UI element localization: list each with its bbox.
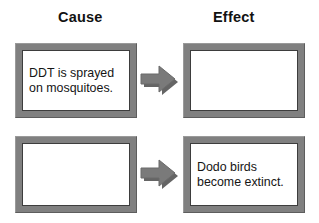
right-arrow-icon-glyph — [140, 157, 184, 191]
column-heading-effect: Effect — [213, 9, 255, 25]
right-arrow-icon — [140, 157, 184, 191]
cause-box-row-1[interactable]: DDT is sprayed on mosquitoes. — [15, 43, 137, 118]
cause-text-row-1: DDT is sprayed on mosquitoes. — [23, 66, 117, 96]
effect-box-row-2[interactable]: Dodo birds become extinct. — [183, 136, 305, 213]
cause-box-row-2-inner — [22, 143, 130, 206]
effect-box-row-1[interactable] — [183, 43, 305, 118]
cause-effect-worksheet: Cause Effect DDT is sprayed on mosquitoe… — [0, 0, 319, 223]
right-arrow-icon-glyph — [140, 63, 184, 97]
right-arrow-icon — [140, 63, 184, 97]
cause-box-row-2[interactable] — [15, 136, 137, 213]
effect-box-row-2-inner: Dodo birds become extinct. — [190, 143, 298, 206]
column-heading-cause: Cause — [58, 9, 103, 25]
effect-text-row-2: Dodo birds become extinct. — [191, 160, 287, 190]
cause-box-row-1-inner: DDT is sprayed on mosquitoes. — [22, 50, 130, 111]
effect-box-row-1-inner — [190, 50, 298, 111]
